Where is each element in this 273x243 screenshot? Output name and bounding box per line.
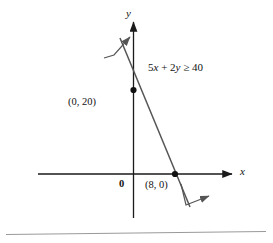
inequality-relation: ≥	[183, 61, 189, 73]
inequality-var-y: y	[176, 61, 181, 73]
origin-label: 0	[119, 179, 124, 190]
y-axis-label: y	[126, 8, 131, 19]
inequality-plus: +	[161, 61, 167, 73]
point-label-x-intercept: (8, 0)	[145, 180, 168, 191]
inequality-var-x: x	[154, 61, 159, 73]
bottom-divider	[6, 232, 266, 235]
point-marker-y-intercept	[130, 87, 136, 93]
point-label-y-intercept: (0, 20)	[68, 97, 96, 108]
x-axis-label: x	[240, 166, 245, 177]
inequality-annotation: 5x + 2y ≥ 40	[148, 62, 203, 73]
point-marker-x-intercept	[172, 171, 178, 177]
inequality-graph-figure: y x 0 (0, 20) (8, 0) 5x + 2y ≥ 40	[0, 0, 273, 243]
graph-canvas	[0, 0, 273, 243]
shading-arrow-upper	[104, 37, 130, 58]
inequality-constant: 40	[192, 61, 203, 73]
